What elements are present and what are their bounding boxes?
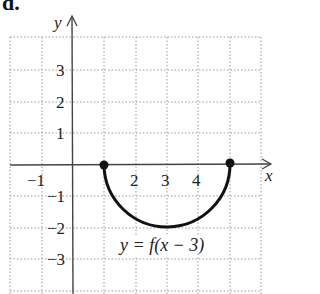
y-tick-2: 2 <box>56 94 65 111</box>
x-tick-4: 4 <box>192 172 201 189</box>
x-tick-neg1: −1 <box>27 172 45 189</box>
y-axis <box>67 16 77 294</box>
y-tick-neg3: −3 <box>47 251 65 268</box>
y-tick-neg2: −2 <box>47 220 65 237</box>
right-endpoint-dot <box>226 159 235 168</box>
x-tick-3: 3 <box>161 172 170 189</box>
left-endpoint-dot <box>100 161 109 170</box>
y-tick-3: 3 <box>56 62 65 79</box>
y-tick-1: 1 <box>56 125 65 142</box>
y-axis-label: y <box>54 14 62 31</box>
x-tick-2: 2 <box>130 172 139 189</box>
x-axis-label: x <box>265 167 273 184</box>
function-equation-label: y = f(x − 3) <box>118 235 206 256</box>
y-tick-neg1: −1 <box>47 188 65 205</box>
